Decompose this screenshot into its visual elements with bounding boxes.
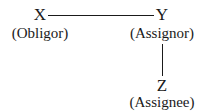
node-x-letter: X (32, 6, 48, 23)
node-y-letter: Y (154, 6, 170, 23)
edge-x-y (48, 15, 154, 16)
node-y-role: (Assignor) (122, 26, 202, 41)
edge-y-z (162, 44, 163, 76)
node-z-letter: Z (154, 77, 170, 94)
node-x-role: (Obligor) (0, 26, 80, 41)
node-z-role: (Assignee) (118, 95, 206, 110)
